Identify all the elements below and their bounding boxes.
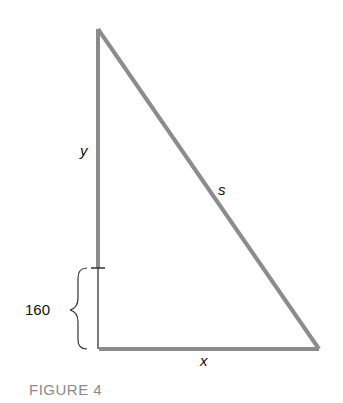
label-x: x [199, 352, 208, 369]
triangle-diagram: y s x 160 FIGURE 4 [0, 0, 343, 403]
curly-brace [70, 268, 87, 349]
label-s: s [218, 181, 226, 198]
figure-caption: FIGURE 4 [29, 381, 102, 398]
label-160: 160 [25, 301, 50, 318]
hypotenuse-s [98, 29, 319, 349]
label-y: y [79, 142, 89, 159]
